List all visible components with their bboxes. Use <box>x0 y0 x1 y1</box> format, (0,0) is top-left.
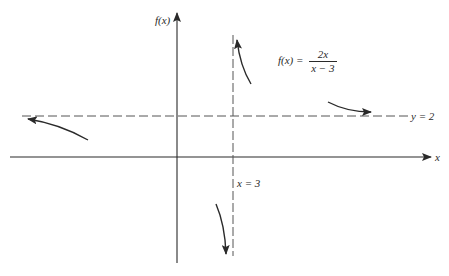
curve-right-tail <box>328 102 371 112</box>
horizontal-asymptote-label: y = 2 <box>411 111 434 122</box>
rational-function-graph: f(x) x f(x) = 2x x − 3 y = 2 x = 3 <box>0 0 449 276</box>
curve-left-tail <box>28 119 88 140</box>
y-axis-label: f(x) <box>155 15 170 26</box>
function-fraction: 2x x − 3 <box>309 49 336 74</box>
vertical-asymptote-label: x = 3 <box>237 178 260 189</box>
graph-canvas <box>0 0 449 276</box>
function-equation: f(x) = 2x x − 3 <box>278 49 337 74</box>
function-lhs: f(x) = <box>278 54 303 66</box>
function-numerator: 2x <box>309 49 336 62</box>
function-denominator: x − 3 <box>309 62 336 74</box>
curve-lower-branch <box>216 204 226 254</box>
x-axis-label: x <box>435 152 440 163</box>
curve-upper-branch <box>237 40 251 84</box>
